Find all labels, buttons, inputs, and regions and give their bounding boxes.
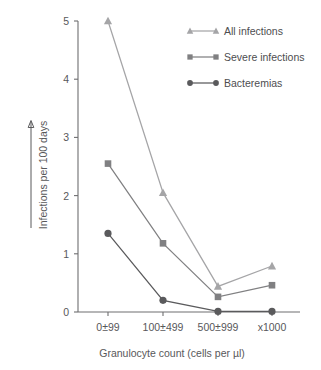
x-tick-label: 0±99	[96, 321, 119, 333]
circle-marker	[213, 80, 219, 86]
triangle-marker	[268, 262, 276, 270]
square-marker	[160, 240, 167, 247]
series-bacteremias	[104, 230, 275, 315]
x-tick-label: x1000	[258, 321, 287, 333]
y-axis-title: Infections per 100 days	[37, 121, 49, 230]
square-marker	[269, 282, 276, 289]
x-tick-label: 100±499	[143, 321, 184, 333]
y-tick-label: 3	[63, 131, 69, 143]
square-marker	[215, 294, 222, 301]
y-tick-label: 0	[63, 306, 69, 318]
legend-label: All infections	[224, 25, 283, 37]
legend-item[interactable]: All infections	[187, 25, 283, 37]
legend-label: Severe infections	[224, 51, 305, 63]
chart-svg: 012345 0±99100±499500±999x1000 Infection…	[0, 0, 321, 370]
circle-marker	[214, 308, 221, 315]
legend-item[interactable]: Severe infections	[187, 51, 304, 63]
chart-legend: All infectionsSevere infectionsBacteremi…	[187, 25, 305, 89]
series-line	[108, 164, 272, 297]
y-tick-label: 4	[63, 73, 69, 85]
square-marker	[105, 160, 112, 167]
circle-marker	[187, 80, 193, 86]
legend-item[interactable]: Bacteremias	[187, 77, 282, 89]
circle-marker	[268, 308, 275, 315]
x-axis-ticks: 0±99100±499500±999x1000	[96, 312, 286, 333]
square-marker	[213, 54, 218, 59]
y-tick-label: 5	[63, 15, 69, 27]
x-tick-label: 500±999	[198, 321, 239, 333]
square-marker	[187, 54, 192, 59]
x-axis-title: Granulocyte count (cells per µl)	[99, 347, 245, 359]
y-axis-label-group: Infections per 100 days	[28, 121, 49, 230]
chart-figure: 012345 0±99100±499500±999x1000 Infection…	[0, 0, 321, 370]
series-severe-infections	[105, 160, 276, 300]
legend-label: Bacteremias	[224, 77, 282, 89]
y-tick-label: 2	[63, 190, 69, 202]
triangle-marker	[159, 188, 167, 196]
series-line	[108, 233, 272, 311]
y-tick-label: 1	[63, 248, 69, 260]
triangle-marker	[104, 17, 112, 25]
circle-marker	[104, 230, 111, 237]
y-axis-ticks: 012345	[63, 15, 78, 318]
circle-marker	[159, 297, 166, 304]
